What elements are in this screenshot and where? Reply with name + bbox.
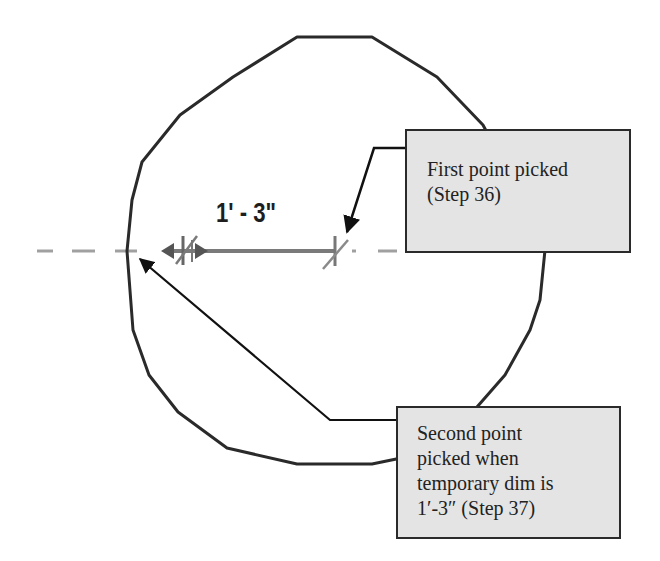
first-callout-leader xyxy=(347,148,405,232)
callout-text-line: (Step 36) xyxy=(427,182,619,207)
callout-text-line: picked when xyxy=(417,446,611,471)
second-point-callout: Second point picked when temporary dim i… xyxy=(396,406,621,539)
second-callout-leader xyxy=(140,259,396,420)
callout-text-line: First point picked xyxy=(427,157,619,182)
callout-text-line: Second point xyxy=(417,421,611,446)
first-point-callout: First point picked (Step 36) xyxy=(405,129,631,253)
callout-text-line: temporary dim is xyxy=(417,471,611,496)
callout-text-line: 1′-3″ (Step 37) xyxy=(417,496,611,521)
dimension-value-label[interactable]: 1' - 3" xyxy=(216,198,276,229)
diagram-canvas: 1' - 3" First point picked (Step 36) Sec… xyxy=(0,0,660,561)
temporary-dimension[interactable] xyxy=(161,236,348,269)
